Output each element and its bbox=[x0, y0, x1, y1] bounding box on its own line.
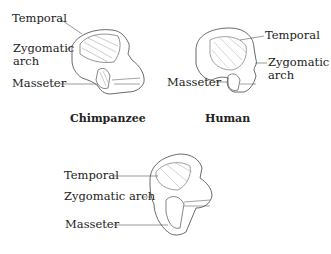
human-zygomatic-arch-label: arch bbox=[268, 69, 294, 82]
hominid-skull bbox=[150, 154, 212, 235]
chimp-masseter-label: Masseter bbox=[12, 77, 66, 90]
human-masseter-label: Masseter bbox=[167, 76, 221, 89]
human-leaders bbox=[214, 36, 267, 82]
chimp-zygomatic-arch-label: arch bbox=[13, 55, 39, 68]
hominid-temporal-label: Temporal bbox=[64, 169, 119, 182]
hominid-zygomatic-arch-label: Zygomatic arch bbox=[64, 190, 155, 203]
chimp-temporal-label: Temporal bbox=[12, 12, 67, 25]
chimpanzee-caption: Chimpanzee bbox=[70, 112, 146, 125]
human-caption: Human bbox=[205, 112, 250, 125]
human-temporal-label: Temporal bbox=[265, 29, 320, 42]
hominid-masseter-label: Masseter bbox=[65, 218, 119, 231]
chimpanzee-skull bbox=[72, 30, 144, 94]
